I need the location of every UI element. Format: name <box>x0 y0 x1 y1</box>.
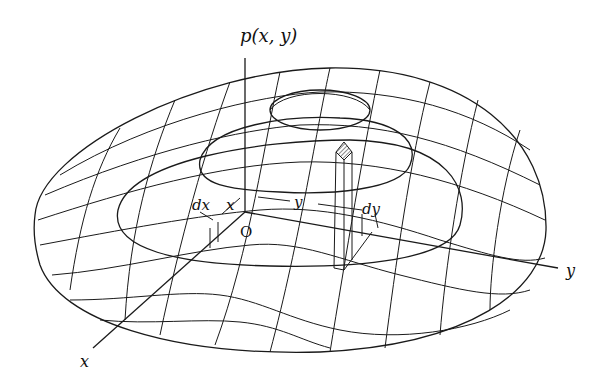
x-dimension-label: x <box>226 196 235 214</box>
x-axis <box>93 212 245 348</box>
density-surface-diagram: p(x, y) x y O dx x y dy <box>0 0 599 391</box>
z-axis-label: p(x, y) <box>240 25 297 46</box>
origin-label: O <box>240 223 252 241</box>
surface-outline <box>34 68 546 352</box>
x-axis-label: x <box>80 352 89 371</box>
y-dimension-label: y <box>293 193 303 211</box>
dy-label: dy <box>362 200 381 218</box>
dx-label: dx <box>192 196 211 214</box>
axes <box>93 58 558 348</box>
y-axis-label: y <box>565 261 576 280</box>
